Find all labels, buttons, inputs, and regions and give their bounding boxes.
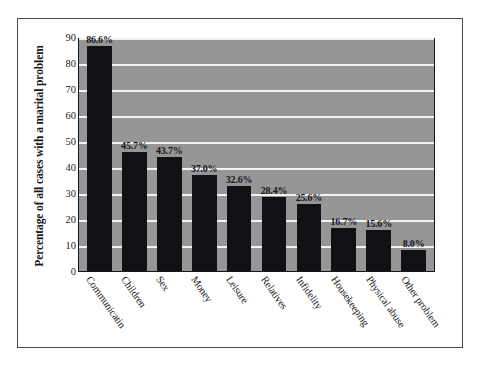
y-axis-title: Percentage of all cases with a marital p… (30, 38, 48, 274)
bar-series: 86.6%45.7%43.7%37.0%32.6%28.4%25.6%16.7%… (79, 39, 434, 271)
x-axis-category-label: Money (189, 274, 215, 304)
bar: 45.7% (122, 152, 147, 271)
x-axis-category-label: Leisure (224, 274, 250, 305)
bar-value-label: 43.7% (156, 145, 183, 156)
bar-slot: 15.6% (361, 39, 396, 271)
y-axis-tick-label: 40 (50, 163, 76, 174)
x-axis-category-label: Infidelity (294, 274, 325, 311)
y-axis-tick-label: 90 (50, 33, 76, 44)
x-axis-category-label: Relatives (259, 274, 290, 311)
bar-value-label: 37.0% (191, 163, 218, 174)
bar-value-label: 15.6% (365, 218, 392, 229)
bar: 28.4% (262, 197, 287, 271)
y-axis-tick-label: 70 (50, 85, 76, 96)
bar: 32.6% (227, 186, 252, 271)
y-axis-tick-label: 50 (50, 137, 76, 148)
bar-value-label: 16.7% (331, 216, 358, 227)
y-axis-tick-label: 10 (50, 241, 76, 252)
figure-root: Percentage of all cases with a marital p… (0, 0, 484, 382)
bar-value-label: 28.4% (261, 185, 288, 196)
bar-slot: 43.7% (152, 39, 187, 271)
bar-slot: 45.7% (117, 39, 152, 271)
bar: 8.0% (401, 250, 426, 271)
bar-slot: 37.0% (187, 39, 222, 271)
bar: 16.7% (331, 228, 356, 271)
bar: 15.6% (366, 230, 391, 271)
bar-value-label: 25.6% (296, 192, 323, 203)
bar-slot: 32.6% (222, 39, 257, 271)
x-axis-category-label: Children (119, 274, 148, 309)
bar-slot: 25.6% (291, 39, 326, 271)
x-axis-category-labels: CommunicatinChildrenSexMoneyLeisureRelat… (78, 274, 435, 354)
bar: 25.6% (297, 204, 322, 271)
plot-area: 86.6%45.7%43.7%37.0%32.6%28.4%25.6%16.7%… (78, 38, 435, 272)
bar-slot: 86.6% (82, 39, 117, 271)
y-axis-tick-label: 30 (50, 189, 76, 200)
bar-slot: 8.0% (396, 39, 431, 271)
bar-value-label: 86.6% (86, 34, 113, 45)
bar-value-label: 8.0% (403, 238, 425, 249)
bar: 43.7% (157, 157, 182, 271)
y-axis-tick-label: 80 (50, 59, 76, 70)
bar-value-label: 45.7% (121, 140, 148, 151)
bar: 86.6% (87, 46, 112, 271)
y-axis-tick-label: 60 (50, 111, 76, 122)
bar-slot: 16.7% (326, 39, 361, 271)
bar-slot: 28.4% (257, 39, 292, 271)
bar-value-label: 32.6% (226, 174, 253, 185)
bar: 37.0% (192, 175, 217, 271)
x-axis-category-label: Sex (154, 274, 172, 293)
y-axis-tick-label: 0 (50, 267, 76, 278)
y-axis-tick-labels: 0102030405060708090 (50, 38, 76, 272)
y-axis-tick-label: 20 (50, 215, 76, 226)
